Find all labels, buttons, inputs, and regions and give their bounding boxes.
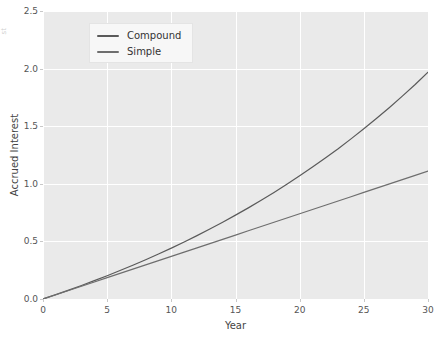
y-tick-label: 2.5 [24, 7, 38, 16]
gridline-vertical [428, 11, 429, 299]
y-tick-label: 0.0 [24, 295, 38, 304]
x-tick-mark [300, 299, 301, 302]
x-tick-label: 15 [230, 306, 241, 315]
x-axis-tick-labels: 051015202530 [0, 306, 439, 320]
x-axis-title: Year [43, 320, 428, 331]
x-tick-mark [107, 299, 108, 302]
x-tick-mark [364, 299, 365, 302]
x-tick-mark [43, 299, 44, 302]
y-tick-label: 1.0 [24, 180, 38, 189]
legend-label-simple: Simple [127, 47, 161, 57]
x-tick-mark [171, 299, 172, 302]
x-tick-label: 0 [40, 306, 46, 315]
x-tick-label: 30 [422, 306, 433, 315]
legend-swatch-compound [97, 35, 119, 37]
x-tick-label: 25 [358, 306, 369, 315]
plot-axes-area: Compound Simple [43, 11, 428, 299]
x-tick-mark [428, 299, 429, 302]
y-tick-mark [40, 69, 43, 70]
line-compound [43, 72, 428, 299]
y-tick-mark [40, 241, 43, 242]
y-tick-mark [40, 11, 43, 12]
legend-item-compound: Compound [97, 29, 185, 43]
y-axis-title: Accrued Interest [8, 11, 22, 299]
legend-label-compound: Compound [127, 31, 181, 41]
chart-figure: st Compound Simple 0.00.51.01.52.02.5 05… [0, 0, 439, 337]
legend-swatch-simple [97, 51, 119, 53]
chart-legend: Compound Simple [89, 23, 193, 63]
y-tick-label: 2.0 [24, 65, 38, 74]
x-tick-mark [236, 299, 237, 302]
x-tick-label: 10 [166, 306, 177, 315]
y-tick-label: 0.5 [24, 237, 38, 246]
y-tick-label: 1.5 [24, 122, 38, 131]
legend-item-simple: Simple [97, 45, 185, 59]
x-tick-label: 5 [104, 306, 110, 315]
y-tick-mark [40, 126, 43, 127]
y-tick-mark [40, 184, 43, 185]
x-tick-label: 20 [294, 306, 305, 315]
line-simple [43, 171, 428, 299]
